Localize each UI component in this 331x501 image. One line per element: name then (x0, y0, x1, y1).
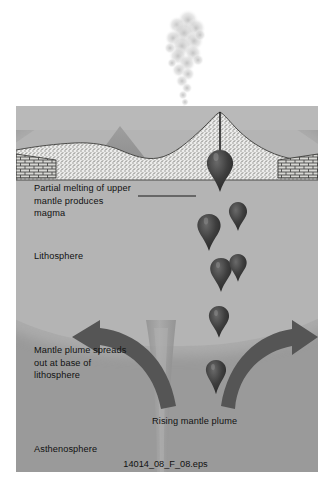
magma-droplets (192, 150, 247, 394)
label-asthenosphere: Asthenosphere (34, 443, 97, 456)
plume-spread-arrow-right (221, 320, 318, 409)
stippled-crust (16, 112, 318, 180)
label-partial-melting: Partial melting of upper mantle produces… (34, 182, 131, 220)
label-mantle-plume-spreads: Mantle plume spreads out at base of lith… (34, 344, 126, 382)
eruption-smoke-column (148, 8, 222, 112)
label-rising-mantle-plume: Rising mantle plume (152, 415, 237, 428)
label-lithosphere: Lithosphere (34, 250, 83, 263)
figure-canvas: Partial melting of upper mantle produces… (0, 0, 331, 501)
figure-caption: 14014_08_F_08.eps (0, 459, 331, 469)
